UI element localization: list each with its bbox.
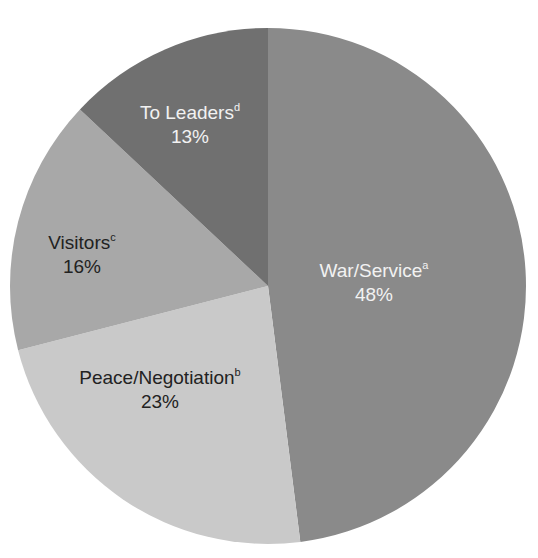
footnote-marker: c (110, 231, 116, 243)
slice-label: Peace/Negotiationb23% (79, 366, 240, 414)
slice-label: Visitorsc16% (48, 231, 115, 279)
pie-chart (0, 0, 538, 558)
slice-name: War/Service (320, 260, 423, 281)
footnote-marker: b (235, 366, 241, 378)
footnote-marker: a (422, 259, 428, 271)
slice-percent: 13% (171, 126, 209, 147)
slice-percent: 16% (63, 256, 101, 277)
slice-label: To Leadersd13% (140, 101, 240, 149)
slice-label: War/Servicea48% (320, 259, 429, 307)
slice-name: Visitors (48, 232, 110, 253)
footnote-marker: d (234, 101, 240, 113)
slice-name: Peace/Negotiation (79, 367, 234, 388)
slice-percent: 48% (355, 284, 393, 305)
slice-percent: 23% (141, 391, 179, 412)
slice-name: To Leaders (140, 102, 234, 123)
